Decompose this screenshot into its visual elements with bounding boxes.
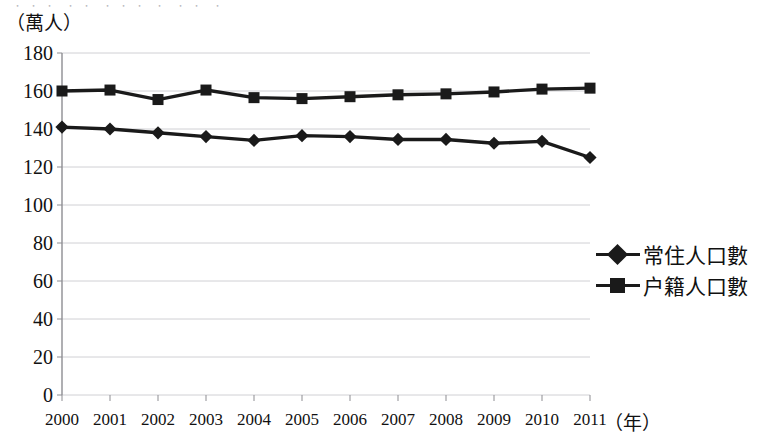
square-icon [596,275,640,295]
data-point-diamond [535,135,548,148]
x-tick-label: 2001 [93,410,127,429]
data-point-square [57,86,68,97]
data-point-square [105,85,116,96]
data-point-square [441,88,452,99]
y-tick-label: 120 [23,156,53,178]
data-point-diamond [343,130,356,143]
x-tick-label: 2003 [189,410,223,429]
data-point-square [345,91,356,102]
y-tick-label: 160 [23,80,53,102]
x-tick-label: 2006 [333,410,367,429]
x-tick-label: 2011 [573,410,606,429]
data-point-diamond [199,130,212,143]
y-tick-label: 140 [23,118,53,140]
y-tick-label: 100 [23,194,53,216]
x-tick-label: 2005 [285,410,319,429]
data-point-square [297,93,308,104]
diamond-icon [596,244,640,264]
series-line-household [62,88,590,99]
data-point-square [153,94,164,105]
chart-legend: 常住人口數 户籍人口數 [596,238,776,300]
y-tick-label: 40 [33,308,53,330]
legend-item-household-population: 户籍人口數 [596,269,776,300]
data-point-diamond [391,133,404,146]
data-point-diamond [295,129,308,142]
data-point-diamond [55,121,68,134]
x-tick-label: 2010 [525,410,559,429]
y-tick-label: 60 [33,270,53,292]
data-point-diamond [103,122,116,135]
y-tick-label: 80 [33,232,53,254]
x-tick-label: 2004 [237,410,272,429]
x-axis-unit-label: （年） [604,408,661,435]
data-point-diamond [151,126,164,139]
series-line-resident [62,127,590,157]
data-point-square [489,86,500,97]
data-point-diamond [247,134,260,147]
x-tick-label: 2007 [381,410,416,429]
x-tick-label: 2000 [45,410,79,429]
legend-label-0: 常住人口數 [643,239,748,269]
y-tick-label: 20 [33,346,53,368]
data-point-diamond [487,137,500,150]
chart-container: ﹒﹒﹒ ﹒﹒ ﹒﹒﹒ ﹒ ﹒﹒ ﹒ （萬人） 02040608010012014… [0,0,777,443]
data-point-square [201,85,212,96]
data-point-square [585,83,596,94]
x-tick-label: 2002 [141,410,175,429]
data-point-diamond [583,151,596,164]
x-tick-label: 2009 [477,410,511,429]
data-point-square [249,92,260,103]
legend-item-resident-population: 常住人口數 [596,238,776,269]
data-point-diamond [439,133,452,146]
data-point-square [537,84,548,95]
y-tick-label: 0 [43,384,53,406]
y-tick-label: 180 [23,42,53,64]
legend-label-1: 户籍人口數 [643,270,748,300]
x-tick-label: 2008 [429,410,463,429]
line-chart-plot: 0204060801001201401601802000200120022003… [0,0,777,443]
data-point-square [393,89,404,100]
